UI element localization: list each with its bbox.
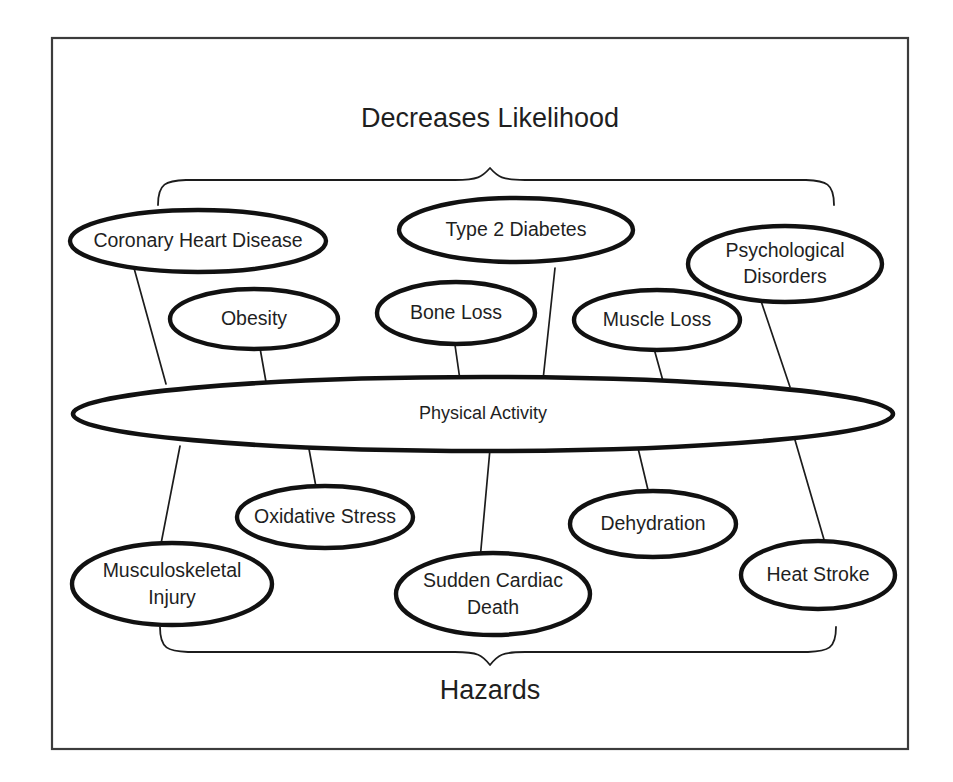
top-group-label: Decreases Likelihood bbox=[361, 103, 619, 133]
node-obesity[interactable]: Obesity bbox=[170, 289, 338, 349]
node-muscle-loss[interactable]: Muscle Loss bbox=[574, 290, 740, 350]
psychological-disorders-label-line1: Psychological bbox=[725, 239, 844, 261]
node-psychological-disorders[interactable]: Psychological Disorders bbox=[688, 226, 882, 302]
sudden-cardiac-death-label-line1: Sudden Cardiac bbox=[423, 569, 563, 591]
node-physical-activity-hub[interactable]: Physical Activity bbox=[73, 377, 893, 451]
musculoskeletal-injury-label-line2: Injury bbox=[148, 586, 196, 608]
concept-diagram: Decreases Likelihood Coronary Heart Dise… bbox=[0, 0, 953, 782]
node-oxidative-stress[interactable]: Oxidative Stress bbox=[237, 486, 413, 548]
physical-activity-label: Physical Activity bbox=[419, 403, 547, 423]
bone-loss-label: Bone Loss bbox=[410, 301, 502, 323]
type-2-diabetes-label: Type 2 Diabetes bbox=[446, 218, 587, 240]
node-heat-stroke[interactable]: Heat Stroke bbox=[741, 541, 895, 609]
oxidative-stress-label: Oxidative Stress bbox=[254, 505, 396, 527]
node-dehydration[interactable]: Dehydration bbox=[570, 491, 736, 557]
bottom-group-label: Hazards bbox=[440, 675, 541, 705]
muscle-loss-label: Muscle Loss bbox=[603, 308, 712, 330]
sudden-cardiac-death-ellipse bbox=[396, 553, 590, 635]
psychological-disorders-ellipse bbox=[688, 226, 882, 302]
musculoskeletal-injury-label-line1: Musculoskeletal bbox=[103, 559, 242, 581]
node-sudden-cardiac-death[interactable]: Sudden Cardiac Death bbox=[396, 553, 590, 635]
heat-stroke-label: Heat Stroke bbox=[767, 563, 870, 585]
node-bone-loss[interactable]: Bone Loss bbox=[377, 282, 535, 344]
psychological-disorders-label-line2: Disorders bbox=[743, 265, 827, 287]
obesity-label: Obesity bbox=[221, 307, 287, 329]
sudden-cardiac-death-label-line2: Death bbox=[467, 596, 519, 618]
dehydration-label: Dehydration bbox=[600, 512, 705, 534]
figure-root: Decreases Likelihood Coronary Heart Dise… bbox=[0, 0, 953, 782]
coronary-heart-disease-label: Coronary Heart Disease bbox=[93, 229, 302, 251]
node-coronary-heart-disease[interactable]: Coronary Heart Disease bbox=[70, 210, 326, 272]
node-musculoskeletal-injury[interactable]: Musculoskeletal Injury bbox=[72, 543, 272, 625]
musculoskeletal-injury-ellipse bbox=[72, 543, 272, 625]
node-type-2-diabetes[interactable]: Type 2 Diabetes bbox=[399, 198, 633, 262]
